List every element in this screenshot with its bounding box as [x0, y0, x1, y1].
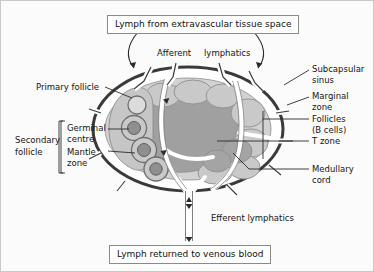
germinal-mantle-bracket [61, 121, 65, 173]
afferent-label: Afferent [157, 48, 191, 59]
medullary-cord-label-line2: cord [312, 175, 331, 186]
marginal-zone-label-line1: Marginal [312, 91, 349, 102]
follicles-label-line2: (B cells) [312, 125, 346, 136]
follicles-label-line1: Follicles [312, 114, 346, 125]
efferent-vessel [186, 189, 193, 242]
germinal-centre-label-line2: centre [67, 134, 94, 145]
germinal-centre-label-line1: Germinal [67, 123, 106, 134]
lymphatics-label: lymphatics [204, 48, 250, 59]
mantle-zone-label-line2: zone [67, 158, 87, 169]
subcapsular-sinus-label-line1: Subcapsular [312, 64, 364, 75]
primary-follicle-label: Primary follicle [36, 82, 99, 93]
subcapsular-sinus-label-line2: sinus [312, 75, 334, 86]
bottom-text-box: Lymph returned to venous blood [109, 245, 271, 264]
lymph-node-diagram: Lymph from extravascular tissue space Ly… [0, 0, 374, 272]
secondary-follicle-label-line1: Secondary [15, 135, 60, 146]
secondary-follicle-3 [144, 157, 168, 181]
medullary-cord-label-line1: Medullary [312, 164, 354, 175]
secondary-follicle-1 [122, 116, 147, 141]
top-text-box: Lymph from extravascular tissue space [107, 15, 299, 34]
mantle-zone-label-line1: Mantle [67, 147, 96, 158]
efferent-lymphatics-label: Efferent lymphatics [211, 213, 294, 224]
secondary-follicle-label-line2: follicle [15, 147, 43, 158]
t-zone-label: T zone [312, 136, 340, 147]
marginal-zone-label-line2: zone [312, 102, 332, 113]
primary-follicle [128, 96, 146, 114]
